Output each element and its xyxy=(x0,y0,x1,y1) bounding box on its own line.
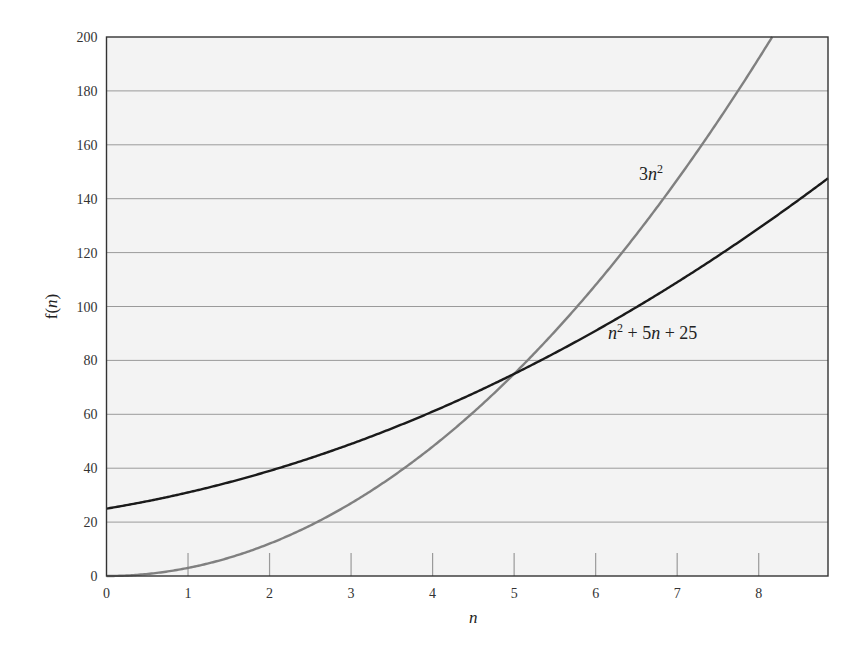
x-tick-label: 2 xyxy=(266,586,273,601)
x-tick-label: 7 xyxy=(674,586,681,601)
x-tick-label: 3 xyxy=(348,586,355,601)
x-tick-label: 8 xyxy=(755,586,762,601)
y-axis-tick-labels: 020406080100120140160180200 xyxy=(77,30,98,584)
y-axis-label: f(n) xyxy=(42,294,61,320)
x-axis-label: n xyxy=(469,608,478,627)
y-tick-label: 160 xyxy=(77,138,98,153)
x-tick-label: 0 xyxy=(103,586,110,601)
chart-canvas: 020406080100120140160180200 012345678 3n… xyxy=(0,0,865,647)
x-tick-label: 1 xyxy=(185,586,192,601)
y-tick-label: 100 xyxy=(77,300,98,315)
y-tick-label: 0 xyxy=(91,569,98,584)
y-tick-label: 200 xyxy=(77,30,98,45)
x-tick-label: 5 xyxy=(511,586,518,601)
x-tick-label: 4 xyxy=(429,586,436,601)
y-tick-label: 180 xyxy=(77,84,98,99)
x-axis-tick-labels: 012345678 xyxy=(103,586,762,601)
y-tick-label: 60 xyxy=(84,407,98,422)
y-tick-label: 40 xyxy=(84,461,98,476)
y-tick-label: 120 xyxy=(77,246,98,261)
x-tick-label: 6 xyxy=(592,586,599,601)
y-tick-label: 80 xyxy=(84,353,98,368)
y-tick-label: 140 xyxy=(77,192,98,207)
y-tick-label: 20 xyxy=(84,515,98,530)
